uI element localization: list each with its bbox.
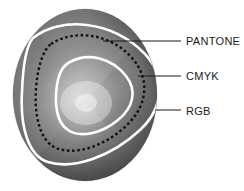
sphere-highlight-core	[75, 94, 97, 112]
gamut-label-pantone: PANTONE	[186, 35, 240, 47]
gamut-label-cmyk: CMYK	[186, 70, 219, 82]
color-gamut-diagram: PANTONE CMYK RGB	[0, 0, 244, 191]
sphere-group	[0, 0, 244, 191]
gamut-label-rgb: RGB	[186, 105, 211, 117]
